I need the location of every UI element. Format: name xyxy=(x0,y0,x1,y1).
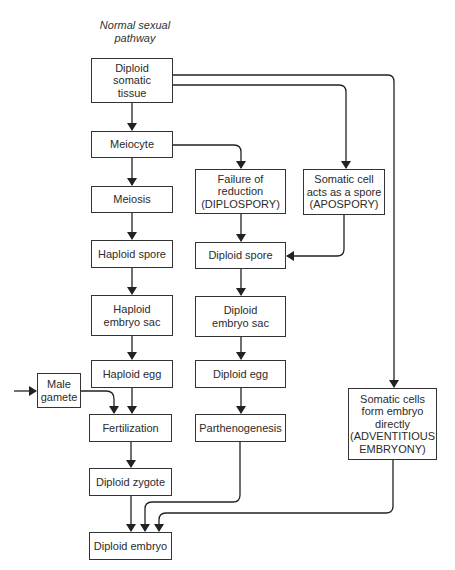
node-meiocyte: Meiocyte xyxy=(91,131,173,158)
node-failure-of-reduction: Failure of reduction (DIPLOSPORY) xyxy=(195,169,286,214)
pathway-title: Normal sexual pathway xyxy=(90,19,180,45)
node-diploid-zygote: Diploid zygote xyxy=(89,468,172,496)
node-haploid-embryo-sac: Haploid embryo sac xyxy=(91,295,173,336)
node-diploid-somatic-tissue: Diploid somatic tissue xyxy=(91,58,173,103)
connector-layer xyxy=(0,0,455,570)
node-fertilization: Fertilization xyxy=(89,414,172,442)
node-male-gamete: Male gamete xyxy=(37,373,81,408)
node-diploid-embryo-sac: Diploid embryo sac xyxy=(195,296,286,337)
node-haploid-spore: Haploid spore xyxy=(91,240,173,268)
node-meiosis: Meiosis xyxy=(91,186,173,213)
node-somatic-cell-spore: Somatic cell acts as a spore (APOSPORY) xyxy=(303,169,385,215)
node-parthenogenesis: Parthenogenesis xyxy=(195,414,286,442)
node-diploid-spore: Diploid spore xyxy=(195,242,286,269)
node-adventitious-embryony: Somatic cells form embryo directly (ADVE… xyxy=(348,388,437,460)
node-diploid-egg: Diploid egg xyxy=(195,360,286,388)
node-diploid-embryo: Diploid embryo xyxy=(89,532,172,560)
node-haploid-egg: Haploid egg xyxy=(91,360,173,388)
